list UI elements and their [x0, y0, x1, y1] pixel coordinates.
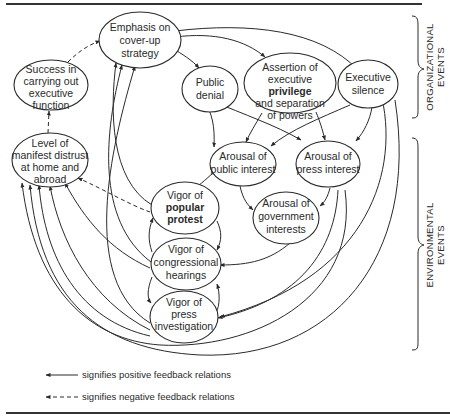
svg-text:Vigor of: Vigor of [166, 296, 202, 308]
node-assertion: Assertion of executive privilege and sep… [244, 53, 336, 121]
svg-text:Arousal of: Arousal of [219, 150, 266, 162]
edge-distrust-success [48, 111, 49, 133]
svg-text:Arousal of: Arousal of [304, 150, 351, 162]
svg-text:silence: silence [352, 84, 385, 96]
node-executive-silence: Executive silence [338, 60, 398, 108]
svg-text:cover-up: cover-up [120, 34, 161, 46]
svg-text:manifest distrust: manifest distrust [12, 149, 89, 161]
feedback-diagram: Emphasis on cover-up strategy Success in… [0, 0, 450, 416]
svg-text:investigation: investigation [155, 320, 214, 332]
node-success: Success in carrying out executive functi… [14, 60, 88, 111]
node-cover-up: Emphasis on cover-up strategy [99, 12, 181, 68]
svg-text:signifies negative feedback re: signifies negative feedback relations [82, 391, 235, 402]
svg-text:Public: Public [196, 76, 225, 88]
node-press-investigation: Vigor of press investigation [150, 291, 218, 343]
node-press-interest: Arousal of press interest [296, 141, 360, 187]
svg-text:Vigor of: Vigor of [168, 243, 204, 255]
svg-text:privilege: privilege [268, 85, 311, 97]
node-public-interest: Arousal of public interest [210, 142, 276, 186]
svg-text:denial: denial [196, 89, 224, 101]
node-popular-protest: Vigor of popular protest [151, 182, 219, 234]
svg-text:abroad: abroad [34, 173, 67, 185]
svg-text:and separation: and separation [255, 97, 325, 109]
svg-text:signifies positive feedback re: signifies positive feedback relations [82, 369, 231, 380]
svg-text:Executive: Executive [345, 71, 391, 83]
brace-environmental: ENVIRONMENTAL EVENTS [412, 138, 446, 350]
brace-organizational: ORGANIZATIONAL EVENTS [412, 16, 446, 118]
svg-text:Emphasis on: Emphasis on [110, 21, 171, 33]
node-distrust: Level of manifest distrust at home and a… [12, 133, 89, 187]
svg-text:of powers: of powers [267, 109, 313, 121]
svg-text:Assertion of: Assertion of [262, 61, 318, 73]
svg-text:carrying out: carrying out [24, 75, 79, 87]
svg-text:EVENTS: EVENTS [435, 47, 446, 87]
svg-text:executive: executive [268, 73, 313, 85]
edge-success-coverup [68, 41, 100, 62]
svg-text:at home and: at home and [21, 161, 80, 173]
svg-text:government: government [258, 210, 314, 222]
svg-text:public interest: public interest [211, 163, 276, 175]
legend: signifies positive feedback relations si… [46, 369, 235, 402]
svg-text:protest: protest [167, 213, 203, 225]
svg-text:Success in: Success in [26, 63, 77, 75]
svg-text:strategy: strategy [121, 47, 159, 59]
legend-positive: signifies positive feedback relations [46, 369, 231, 380]
node-congressional-hearings: Vigor of congressional hearings [151, 238, 221, 290]
svg-text:ENVIRONMENTAL: ENVIRONMENTAL [424, 202, 435, 287]
svg-text:popular: popular [166, 201, 205, 213]
svg-text:hearings: hearings [166, 269, 206, 281]
svg-text:Arousal of: Arousal of [262, 197, 309, 209]
node-government-interests: Arousal of government interests [253, 192, 319, 244]
svg-text:EVENTS: EVENTS [435, 225, 446, 265]
svg-text:Level of: Level of [32, 137, 69, 149]
node-public-denial: Public denial [182, 66, 238, 112]
svg-text:ORGANIZATIONAL: ORGANIZATIONAL [424, 23, 435, 110]
svg-text:congressional: congressional [154, 256, 219, 268]
svg-text:function: function [33, 99, 70, 111]
svg-text:executive: executive [29, 87, 74, 99]
svg-text:Vigor of: Vigor of [167, 189, 203, 201]
svg-text:press interest: press interest [296, 163, 359, 175]
svg-text:interests: interests [266, 223, 306, 235]
legend-negative: signifies negative feedback relations [46, 391, 235, 402]
svg-text:press: press [171, 308, 197, 320]
